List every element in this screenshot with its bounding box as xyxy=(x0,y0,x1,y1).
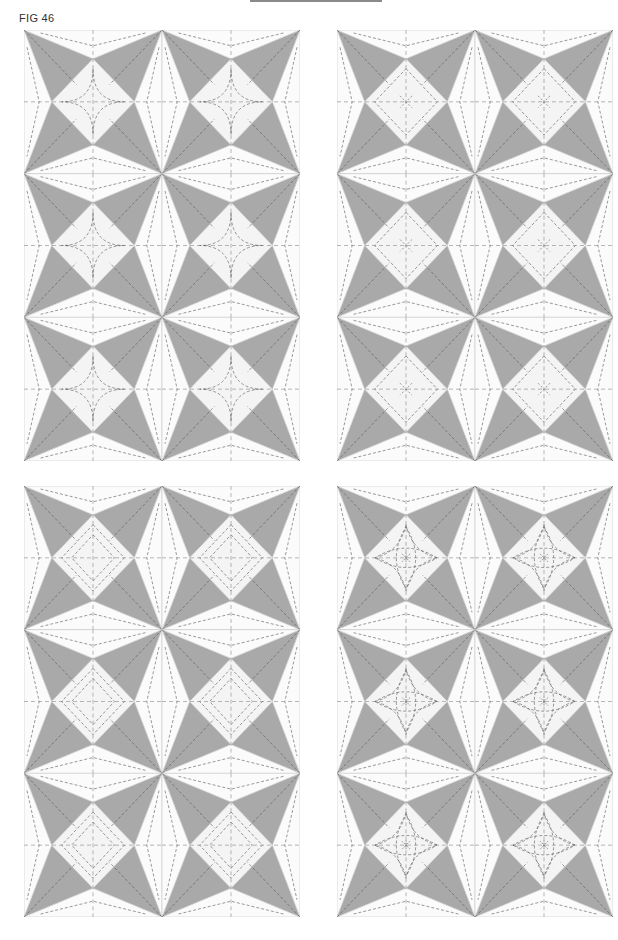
quilt-block xyxy=(24,773,162,917)
quilt-block xyxy=(162,317,300,461)
quilt-block xyxy=(162,174,300,318)
quilt-svg xyxy=(24,30,300,461)
quilt-block xyxy=(162,30,300,174)
quilt-block xyxy=(24,486,162,630)
quilt-block xyxy=(162,486,300,630)
quilt-block xyxy=(475,30,613,174)
quilt-block xyxy=(475,773,613,917)
quilt-svg xyxy=(337,30,613,461)
quilt-block xyxy=(337,486,475,630)
quilt-block xyxy=(475,174,613,318)
quilt-block xyxy=(24,174,162,318)
top-rule xyxy=(250,0,382,2)
quilt-block xyxy=(24,630,162,774)
quilt-block xyxy=(24,30,162,174)
quilt-block xyxy=(337,317,475,461)
quilt-panel-bottom-left xyxy=(24,486,300,917)
quilt-block xyxy=(475,317,613,461)
quilt-block xyxy=(337,630,475,774)
quilt-block xyxy=(475,486,613,630)
quilt-block xyxy=(337,773,475,917)
quilt-block xyxy=(337,30,475,174)
quilt-block xyxy=(337,174,475,318)
quilt-block xyxy=(162,773,300,917)
quilt-panel-top-left xyxy=(24,30,300,461)
quilt-block xyxy=(475,630,613,774)
quilt-svg xyxy=(24,486,300,917)
quilt-panel-bottom-right xyxy=(337,486,613,917)
figure-label: FIG 46 xyxy=(19,12,54,24)
quilt-block xyxy=(162,630,300,774)
quilt-panel-top-right xyxy=(337,30,613,461)
quilt-block xyxy=(24,317,162,461)
quilt-svg xyxy=(337,486,613,917)
